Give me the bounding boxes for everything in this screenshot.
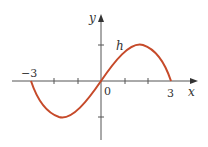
x-left-label: −3	[21, 67, 37, 80]
y-axis-arrow-icon	[98, 14, 104, 22]
graph-canvas: y x h 0 −3 3	[0, 0, 208, 147]
y-axis-label: y	[88, 11, 96, 25]
x-right-label: 3	[167, 87, 174, 100]
x-axis-label: x	[188, 85, 195, 99]
origin-label: 0	[104, 85, 111, 98]
x-axis-arrow-icon	[190, 78, 198, 84]
function-label: h	[116, 39, 124, 53]
